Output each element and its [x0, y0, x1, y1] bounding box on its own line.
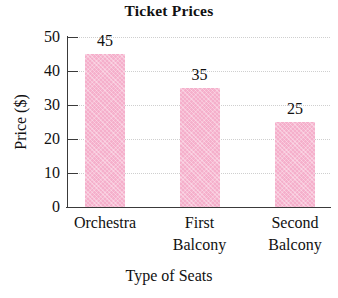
plot-area — [68, 37, 330, 207]
chart-title: Ticket Prices — [0, 1, 338, 21]
y-axis-tick-label: 50 — [26, 29, 60, 45]
bar-value-label: 25 — [265, 100, 325, 117]
bar-value-label: 35 — [170, 66, 230, 83]
bar-chart-figure: Ticket Prices Price ($) Type of Seats 01… — [0, 0, 338, 298]
bar — [85, 54, 125, 207]
x-axis-tick-label: FirstBalcony — [145, 212, 255, 256]
x-axis-tick-label: SecondBalcony — [240, 212, 338, 256]
y-axis-tick-label: 10 — [26, 165, 60, 181]
x-axis-tick-label-line: Orchestra — [74, 214, 136, 231]
y-axis-tick-label: 40 — [26, 63, 60, 79]
y-axis-tick — [68, 173, 78, 174]
y-axis-line — [67, 36, 68, 208]
y-axis-tick — [68, 71, 78, 72]
y-axis-tick-label: 20 — [26, 131, 60, 147]
x-axis-tick-label-line: Second — [271, 214, 318, 231]
x-axis-tick-label-line: Balcony — [268, 236, 321, 253]
y-axis-tick-label: 30 — [26, 97, 60, 113]
y-axis-tick — [68, 139, 78, 140]
bar-value-label: 45 — [75, 32, 135, 49]
x-axis-line — [66, 207, 331, 208]
y-axis-tick — [68, 105, 78, 106]
x-axis-tick-label-line: Balcony — [173, 236, 226, 253]
x-axis-title: Type of Seats — [0, 266, 338, 286]
x-axis-tick-label-line: First — [185, 214, 214, 231]
bar — [275, 122, 315, 207]
bar — [180, 88, 220, 207]
x-axis-tick-label: Orchestra — [50, 212, 160, 234]
